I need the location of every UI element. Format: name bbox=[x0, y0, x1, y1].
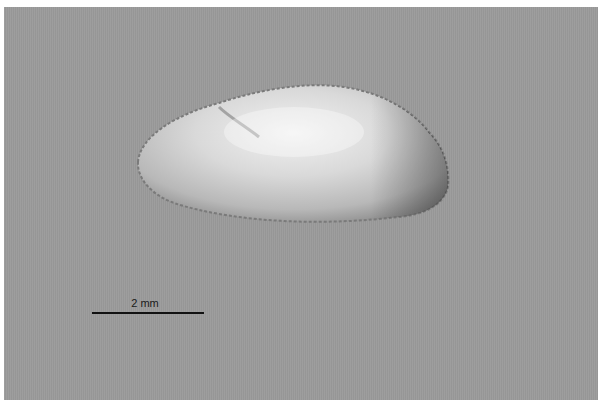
scale-bar: 2 mm bbox=[92, 297, 204, 314]
shell-specimen bbox=[4, 7, 598, 400]
scale-bar-line bbox=[92, 312, 204, 314]
specimen-photo: 2 mm bbox=[4, 7, 598, 400]
scale-bar-label: 2 mm bbox=[86, 297, 204, 309]
